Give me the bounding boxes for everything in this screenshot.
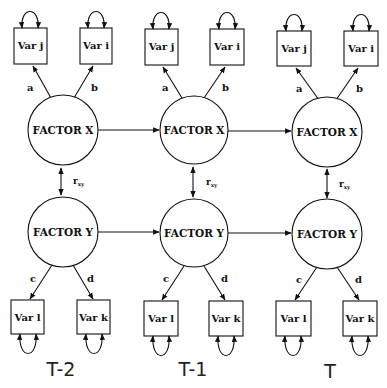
time-label: T-2 [46,358,76,380]
indicator-var-k: Var k [209,301,243,356]
indicator-var-j: Var j [14,12,47,65]
error-variance-loop [219,13,235,30]
indicator-var-l: Var l [11,300,44,354]
svg-text:a: a [296,83,303,94]
error-variance-loop [285,336,301,356]
svg-text:FACTOR X: FACTOR X [297,126,359,138]
time-label: T [323,360,336,382]
svg-text:a: a [27,82,34,93]
time-column-t-2: Var j Var i a b FACTOR X rxy FACTOR Y [11,12,112,381]
svg-text:b: b [222,82,229,93]
indicator-var-i: Var i [80,12,112,65]
svg-text:FACTOR X: FACTOR X [33,124,95,136]
indicator-var-l: Var l [144,301,178,356]
svg-text:Var i: Var i [213,41,240,52]
factor-x-node: FACTOR X [28,95,98,165]
svg-text:rxy: rxy [339,179,351,191]
svg-text:Var k: Var k [78,312,109,323]
indicator-var-j: Var j [145,13,178,66]
svg-text:FACTOR Y: FACTOR Y [297,228,358,240]
loading-path-b [336,68,358,100]
indicator-var-l: Var l [276,301,311,356]
svg-text:Var l: Var l [280,313,307,324]
error-variance-loop [88,12,104,29]
factor-x-node: FACTOR X [292,97,362,167]
indicator-var-k: Var k [343,301,377,356]
svg-text:rxy: rxy [73,176,85,188]
svg-text:b: b [356,83,363,94]
svg-text:Var j: Var j [280,43,307,54]
indicator-var-i: Var i [210,13,244,66]
time-column-t: Var j Var i a b FACTOR X rxy FACTOR Y c … [276,15,378,383]
svg-text:rxy: rxy [206,177,218,189]
factor-y-node: FACTOR Y [28,197,98,267]
svg-text:c: c [163,273,169,284]
error-variance-loop [20,334,36,354]
svg-text:d: d [87,273,94,284]
indicator-var-i: Var i [344,15,378,67]
svg-text:Var i: Var i [82,40,109,51]
error-variance-loop [353,15,369,32]
error-variance-loop [22,12,38,29]
svg-text:Var k: Var k [211,313,242,324]
factor-y-node: FACTOR Y [160,199,228,267]
svg-text:Var l: Var l [14,312,41,323]
factor-x-node: FACTOR X [160,96,228,164]
error-variance-loop [153,13,169,30]
error-variance-loop [352,336,368,356]
svg-text:Var j: Var j [17,40,44,51]
svg-text:Var k: Var k [345,313,376,324]
error-variance-loop [153,336,169,356]
time-label: T-1 [178,358,208,380]
svg-text:Var l: Var l [147,313,174,324]
svg-text:c: c [30,273,36,284]
factor-y-node: FACTOR Y [292,199,362,269]
svg-text:FACTOR Y: FACTOR Y [164,227,225,239]
svg-text:FACTOR X: FACTOR X [164,124,226,136]
indicator-var-k: Var k [77,300,110,354]
svg-text:d: d [355,274,362,285]
svg-text:Var i: Var i [347,43,374,54]
svg-text:d: d [221,273,228,284]
svg-text:b: b [91,82,98,93]
svg-text:a: a [162,82,169,93]
path-diagram: Var j Var i a b FACTOR X rxy FACTOR Y [0,0,387,388]
loading-path-a [33,66,51,98]
svg-text:c: c [296,274,302,285]
error-variance-loop [86,334,102,354]
indicator-var-j: Var j [277,15,311,67]
time-column-t-1: Var j Var i a b FACTOR X rxy FACTOR Y c … [144,13,244,381]
svg-text:FACTOR Y: FACTOR Y [33,226,94,238]
error-variance-loop [286,15,302,32]
error-variance-loop [218,336,234,356]
svg-text:Var j: Var j [148,41,175,52]
